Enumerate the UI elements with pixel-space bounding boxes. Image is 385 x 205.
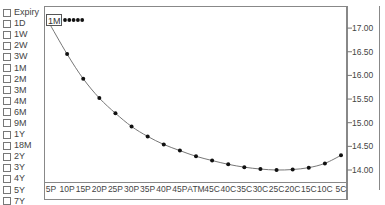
data-point[interactable] [130, 124, 134, 128]
series-marker-icon [72, 18, 76, 22]
y-tick-label: 16.00 [352, 70, 374, 80]
x-tick-label: 15P [76, 184, 91, 194]
x-tick-label: 5P [46, 184, 57, 194]
data-point[interactable] [113, 111, 117, 115]
data-point[interactable] [81, 77, 85, 81]
data-point[interactable] [226, 162, 230, 166]
y-tick-label: 15.00 [352, 118, 374, 128]
x-tick-label: 10C [317, 184, 333, 194]
series-tag-label: 1M [48, 16, 61, 26]
x-tick-label: 15C [301, 184, 317, 194]
series-line-1m [48, 21, 341, 170]
series-marker-icon [67, 18, 71, 22]
data-point[interactable] [242, 165, 246, 169]
data-point[interactable] [178, 149, 182, 153]
series-marker-icon [63, 18, 67, 22]
x-tick-label: 10P [60, 184, 75, 194]
data-point[interactable] [162, 142, 166, 146]
data-point[interactable] [291, 168, 295, 172]
data-point[interactable] [323, 161, 327, 165]
y-tick-label: 15.50 [352, 94, 374, 104]
data-point[interactable] [258, 167, 262, 171]
data-point[interactable] [210, 159, 214, 163]
y-tick-label: 14.00 [352, 165, 374, 175]
data-point[interactable] [339, 153, 343, 157]
y-tick-label: 16.50 [352, 47, 374, 57]
x-tick-label: 30P [124, 184, 139, 194]
x-tick-label: 40C [220, 184, 236, 194]
data-point[interactable] [146, 134, 150, 138]
series-marker-icon [76, 18, 80, 22]
data-point[interactable] [275, 168, 279, 172]
x-tick-label: 5C [336, 184, 347, 194]
x-tick-label: 20P [92, 184, 107, 194]
x-tick-label: 25P [108, 184, 123, 194]
x-tick-label: 45C [204, 184, 220, 194]
x-tick-label: 35P [140, 184, 155, 194]
y-tick-label: 14.50 [352, 141, 374, 151]
y-tick-label: 17.00 [352, 23, 374, 33]
x-tick-label: 35C [237, 184, 253, 194]
data-point[interactable] [194, 154, 198, 158]
smile-chart: 14.0014.5015.0015.5016.0016.5017.005P10P… [0, 0, 385, 205]
x-tick-label: ATM [187, 184, 204, 194]
x-tick-label: 25C [269, 184, 285, 194]
x-tick-label: 30C [253, 184, 269, 194]
series-marker-icon [80, 18, 84, 22]
data-point[interactable] [97, 96, 101, 100]
data-point[interactable] [65, 52, 69, 56]
x-tick-label: 20C [285, 184, 301, 194]
data-point[interactable] [307, 166, 311, 170]
x-tick-label: 45P [172, 184, 187, 194]
x-tick-label: 40P [156, 184, 171, 194]
